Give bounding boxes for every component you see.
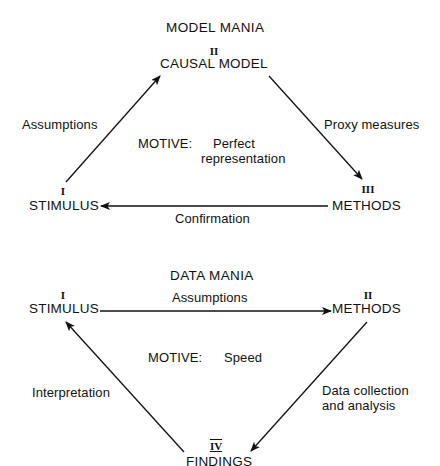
stimulus-node: STIMULUS: [29, 199, 99, 213]
stimulus-numeral: I: [56, 186, 70, 196]
findings-node: FINDINGS: [186, 455, 252, 466]
findings-numeral: IV: [208, 441, 224, 451]
methods-numeral: II: [360, 290, 376, 300]
methods-node: METHODS: [332, 302, 401, 316]
stimulus-numeral: I: [56, 290, 70, 300]
motive-label: MOTIVE:: [148, 351, 202, 365]
stimulus-node: STIMULUS: [29, 302, 99, 316]
diagram-canvas: MODEL MANIA II CAUSAL MODEL I STIMULUS I…: [0, 0, 440, 466]
edge-label-interpretation: Interpretation: [32, 386, 110, 400]
motive-value-line1: Perfect: [213, 137, 255, 151]
data-mania-title: DATA MANIA: [170, 269, 254, 283]
edge-label-and-analysis: and analysis: [322, 399, 395, 413]
motive-value: Speed: [224, 351, 262, 365]
motive-value-line2: representation: [201, 152, 286, 166]
motive-label: MOTIVE:: [138, 137, 192, 151]
causal-model-numeral: II: [206, 46, 222, 56]
causal-model-node: CAUSAL MODEL: [160, 57, 268, 71]
methods-node: METHODS: [332, 199, 401, 213]
edge-label-confirmation: Confirmation: [175, 212, 250, 226]
edge-label-data-collection: Data collection: [322, 384, 409, 398]
model-mania-title: MODEL MANIA: [166, 21, 264, 35]
edge-label-assumptions: Assumptions: [172, 291, 248, 305]
methods-numeral: III: [359, 184, 377, 194]
edge-label-assumptions: Assumptions: [22, 118, 98, 132]
edge-label-proxy-measures: Proxy measures: [324, 118, 419, 132]
